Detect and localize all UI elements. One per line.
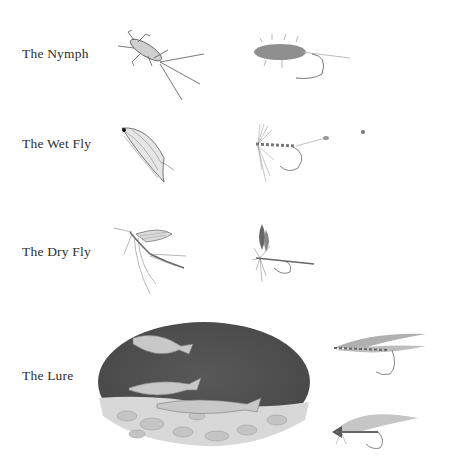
wet-fly-illustration [252, 124, 332, 188]
mayfly-illustration [110, 226, 200, 298]
streamer-fly-bottom-illustration [328, 400, 428, 452]
nymph-fly-illustration [252, 34, 352, 84]
label-wet-fly: The Wet Fly [22, 136, 91, 152]
dry-fly-illustration [252, 220, 322, 290]
label-nymph: The Nymph [22, 46, 89, 62]
nymph-insect-illustration [114, 28, 209, 103]
small-dot [361, 130, 365, 134]
underwater-fish-scene [97, 320, 311, 450]
streamer-fly-top-illustration [330, 326, 430, 378]
wet-fly-insect-illustration [118, 124, 180, 186]
label-lure: The Lure [22, 368, 73, 384]
label-dry-fly: The Dry Fly [22, 244, 91, 260]
